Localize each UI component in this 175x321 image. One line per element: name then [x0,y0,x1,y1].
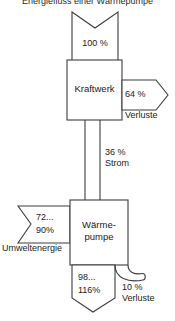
flow-pumpe-losses-edge-inner [128,265,143,274]
flow-nutzwaerme-value-line2: 116% [78,285,100,296]
energy-flow-diagram: Energiefluss einer Wärmepumpe 100 % Kraf… [0,0,175,321]
flow-umweltenergie-caption: Umweltenergie [2,243,62,254]
node-waermepumpe-label-line2: pumpe [70,231,128,243]
node-kraftwerk-label: Kraftwerk [67,83,122,95]
flow-nutzwaerme-value-line1: 98... [78,272,96,283]
flow-strom-caption: Strom [105,158,129,169]
flow-pumpe-losses-value: 10 % [122,282,143,293]
node-waermepumpe-label-line1: Wärme- [70,219,128,231]
flow-kraftwerk-losses-caption: Verluste [125,110,158,121]
flow-input-primary-shape [72,12,118,61]
flow-pumpe-losses-tip [143,274,145,281]
flow-pumpe-losses-edge-outer [115,265,143,281]
flow-strom-value: 36 % [105,147,126,158]
flow-kraftwerk-losses-value: 64 % [125,89,146,100]
flow-umweltenergie-value-line1: 72... [36,212,54,223]
flow-umweltenergie-value-line2: 90% [36,225,54,236]
flow-pumpe-losses-caption: Verluste [122,293,155,304]
flow-input-primary-value: 100 % [72,38,118,49]
